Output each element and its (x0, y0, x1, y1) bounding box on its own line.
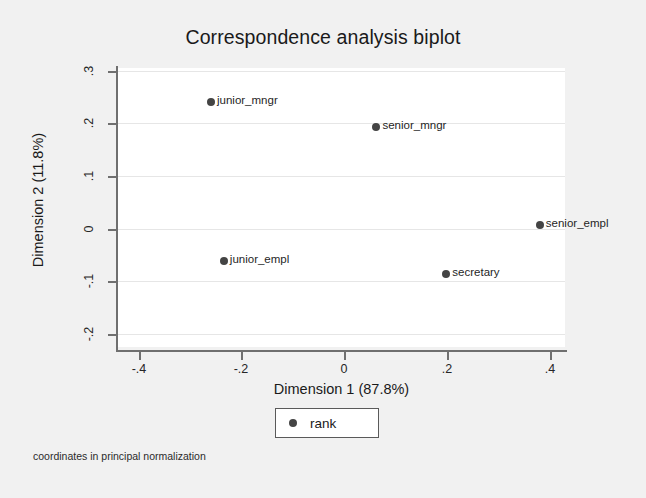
gridline-y--.2 (118, 334, 565, 335)
y-tick-label-container: .3 (76, 64, 102, 78)
gridline-y-.3 (118, 71, 565, 72)
y-tick-.1 (108, 176, 116, 178)
marker-icon (207, 98, 215, 106)
chart-note: coordinates in principal normalization (33, 450, 206, 462)
marker-icon (220, 257, 228, 265)
correspondence-analysis-biplot-figure: Correspondence analysis biplot junior_mn… (0, 0, 646, 498)
x-tick-0 (344, 352, 346, 360)
y-axis-title: Dimension 2 (11.8%) (30, 133, 46, 267)
gridline-y--.1 (118, 281, 565, 282)
y-axis-title-container: Dimension 2 (11.8%) (0, 190, 128, 210)
gridline-y-.1 (118, 176, 565, 177)
x-tick--.4 (139, 352, 141, 360)
x-tick-label: -.2 (221, 362, 261, 376)
y-tick-label-container: -.2 (76, 327, 102, 341)
y-tick-0 (108, 229, 116, 231)
data-point-label: senior_empl (546, 217, 609, 229)
data-point-label: secretary (452, 266, 499, 278)
x-tick-label: -.4 (119, 362, 159, 376)
legend-box[interactable]: rank (275, 408, 379, 438)
plot-area: junior_mngrsenior_mngrsenior_empljunior_… (118, 68, 565, 347)
y-tick-label: -.2 (82, 327, 96, 342)
y-tick-.3 (108, 71, 116, 73)
x-tick-.4 (550, 352, 552, 360)
gridline-y-.2 (118, 123, 565, 124)
y-tick-label: .3 (82, 66, 96, 76)
gridline-y-0 (118, 229, 565, 230)
y-tick--.2 (108, 334, 116, 336)
x-tick-label: 0 (324, 362, 364, 376)
chart-title: Correspondence analysis biplot (0, 26, 646, 49)
legend-entry-label: rank (310, 416, 336, 431)
marker-icon (442, 270, 450, 278)
y-tick-.2 (108, 123, 116, 125)
x-axis-title: Dimension 1 (87.8%) (118, 381, 565, 397)
marker-icon (372, 123, 380, 131)
data-point-label: senior_mngr (382, 119, 446, 131)
data-point-label: junior_mngr (217, 94, 278, 106)
y-tick-label-container: .2 (76, 116, 102, 130)
y-tick-label: .2 (82, 118, 96, 128)
legend-marker-icon (289, 419, 297, 427)
y-tick-label: .1 (82, 171, 96, 181)
y-tick-label-container: .1 (76, 169, 102, 183)
y-tick-label: -.1 (82, 274, 96, 289)
y-tick-label: 0 (82, 226, 96, 233)
data-point-label: junior_empl (230, 253, 289, 265)
x-axis-line (116, 350, 567, 352)
y-tick--.1 (108, 281, 116, 283)
y-tick-label-container: -.1 (76, 274, 102, 288)
x-tick-label: .2 (427, 362, 467, 376)
x-tick-label: .4 (530, 362, 570, 376)
x-tick-.2 (447, 352, 449, 360)
y-tick-label-container: 0 (76, 222, 102, 236)
x-tick--.2 (241, 352, 243, 360)
